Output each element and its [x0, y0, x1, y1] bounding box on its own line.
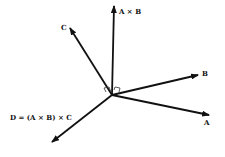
- vector-b: [112, 75, 198, 95]
- right-angle-marker-2: [114, 87, 120, 92]
- label-a: A: [204, 119, 209, 126]
- label-d: D = (A × B) × C: [10, 114, 72, 121]
- vector-diagram: A × B C B A D = (A × B) × C: [0, 0, 225, 157]
- vector-arrows: [0, 0, 225, 157]
- vector-a: [112, 95, 209, 115]
- vector-a-cross-b: [112, 6, 114, 95]
- vector-c: [70, 28, 112, 95]
- label-b: B: [202, 70, 208, 77]
- label-c: C: [61, 24, 67, 31]
- label-a-cross-b: A × B: [119, 8, 141, 15]
